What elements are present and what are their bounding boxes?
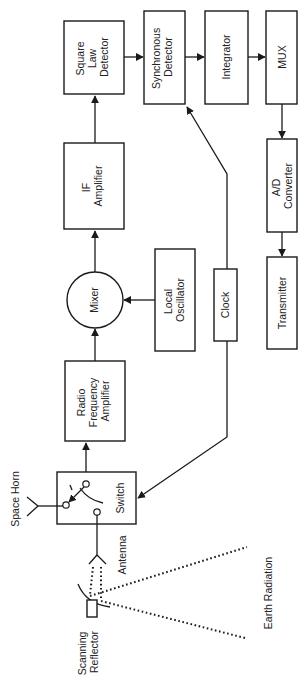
antenna-label: Antenna bbox=[116, 535, 128, 574]
arrow-clock-to-sync bbox=[187, 107, 227, 269]
radiometer-block-diagram: Square Law Detector Synchronous Detector… bbox=[0, 0, 306, 687]
block-rf-amplifier: Radio Frequency Amplifier bbox=[65, 361, 125, 441]
block-square-law-detector: Square Law Detector bbox=[64, 21, 124, 94]
block-clock: Clock bbox=[214, 269, 237, 341]
svg-text:Transmitter: Transmitter bbox=[276, 276, 288, 329]
svg-text:Integrator: Integrator bbox=[220, 34, 232, 79]
switch-terminal-horn bbox=[63, 502, 69, 508]
earth-radiation-label: Earth Radiation bbox=[262, 557, 274, 630]
block-local-oscillator: Local Oscillator bbox=[155, 249, 195, 351]
block-ad-converter: A/D Converter bbox=[267, 139, 297, 232]
switch-terminal-antenna bbox=[94, 509, 100, 515]
space-horn: Space Horn bbox=[9, 471, 63, 527]
block-transmitter: Transmitter bbox=[267, 257, 297, 349]
svg-text:Scanning Reflector: Scanning Reflector bbox=[76, 629, 100, 676]
svg-text:MUX: MUX bbox=[276, 45, 288, 68]
space-horn-label: Space Horn bbox=[9, 471, 21, 527]
scanning-reflector: Scanning Reflector bbox=[76, 584, 110, 675]
arrow-clock-to-switch bbox=[138, 341, 227, 498]
block-integrator: Integrator bbox=[205, 11, 248, 104]
block-synchronous-detector: Synchronous Detector bbox=[144, 11, 185, 104]
switch-terminal-rf bbox=[83, 481, 89, 487]
block-mixer: Mixer bbox=[67, 272, 123, 328]
block-mux: MUX bbox=[266, 11, 297, 104]
svg-text:Clock: Clock bbox=[219, 291, 231, 318]
block-if-amplifier: IF Amplifier bbox=[64, 143, 124, 229]
svg-text:Mixer: Mixer bbox=[88, 287, 100, 313]
svg-text:Switch: Switch bbox=[114, 482, 126, 513]
